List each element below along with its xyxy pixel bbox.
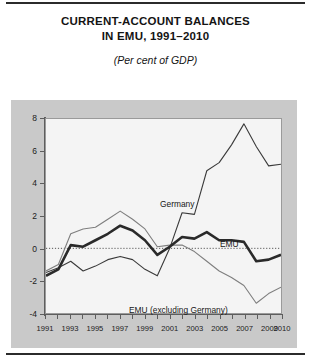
y-tick-neg2 — [40, 281, 44, 282]
y-tick-6 — [40, 151, 44, 152]
x-tick-2003 — [195, 315, 196, 319]
x-tick-label-2010: 2010 — [270, 324, 294, 333]
x-tick-label-1995: 1995 — [83, 324, 107, 333]
x-tick-label-1993: 1993 — [58, 324, 82, 333]
x-tick-2000 — [157, 315, 158, 319]
x-tick-label-2001: 2001 — [158, 324, 182, 333]
y-tick-2 — [40, 216, 44, 217]
x-tick-label-1991: 1991 — [33, 324, 57, 333]
x-tick-1995 — [95, 315, 96, 319]
y-tick-label-0: 0 — [19, 245, 37, 253]
x-tick-label-1999: 1999 — [133, 324, 157, 333]
figure: CURRENT-ACCOUNT BALANCES IN EMU, 1991–20… — [0, 0, 311, 361]
y-tick-8 — [40, 118, 44, 119]
x-tick-2010 — [282, 315, 283, 319]
y-tick-label-8: 8 — [19, 114, 37, 122]
y-tick-label-neg2: -2 — [19, 277, 37, 285]
x-tick-2004 — [207, 315, 208, 319]
x-tick-2008 — [257, 315, 258, 319]
series-line-emu — [46, 226, 281, 276]
x-tick-1993 — [70, 315, 71, 319]
x-tick-label-2005: 2005 — [208, 324, 232, 333]
title-line-2: IN EMU, 1991–2010 — [0, 29, 311, 44]
chart-subtitle: (Per cent of GDP) — [0, 54, 311, 66]
x-tick-2009 — [270, 315, 271, 319]
x-tick-2006 — [232, 315, 233, 319]
bottom-rule — [6, 353, 305, 355]
x-tick-1991 — [45, 315, 46, 319]
x-tick-2005 — [220, 315, 221, 319]
y-tick-label-4: 4 — [19, 179, 37, 187]
series-label-emu: EMU — [220, 239, 239, 249]
x-tick-2001 — [170, 315, 171, 319]
x-tick-1996 — [107, 315, 108, 319]
chart-panel: 86420-2-4 199119931995199719992001200320… — [11, 100, 297, 348]
x-tick-label-2003: 2003 — [183, 324, 207, 333]
y-tick-label-2: 2 — [19, 212, 37, 220]
x-tick-1992 — [57, 315, 58, 319]
series-label-germany: Germany — [160, 199, 194, 209]
y-tick-label-6: 6 — [19, 147, 37, 155]
title-line-1: CURRENT-ACCOUNT BALANCES — [0, 14, 311, 29]
x-tick-label-2007: 2007 — [233, 324, 257, 333]
series-line-emu-excluding-germany — [46, 211, 281, 303]
title-block: CURRENT-ACCOUNT BALANCES IN EMU, 1991–20… — [0, 14, 311, 66]
x-tick-1999 — [145, 315, 146, 319]
y-tick-4 — [40, 183, 44, 184]
plot-area: Germany EMU EMU (excluding Germany) — [45, 118, 282, 314]
x-tick-1998 — [132, 315, 133, 319]
top-rule — [6, 2, 305, 4]
page-title: CURRENT-ACCOUNT BALANCES IN EMU, 1991–20… — [0, 14, 311, 44]
x-tick-label-1997: 1997 — [108, 324, 132, 333]
x-tick-2007 — [245, 315, 246, 319]
y-tick-0 — [40, 249, 44, 250]
series-label-emu-excluding-germany: EMU (excluding Germany) — [129, 305, 228, 315]
series-canvas — [46, 119, 281, 313]
x-tick-1994 — [82, 315, 83, 319]
y-tick-neg4 — [40, 314, 44, 315]
x-tick-2002 — [182, 315, 183, 319]
x-tick-1997 — [120, 315, 121, 319]
y-tick-label-neg4: -4 — [19, 310, 37, 318]
